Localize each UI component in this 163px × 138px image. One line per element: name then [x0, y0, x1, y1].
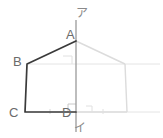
vertex-label-a: A	[66, 28, 75, 41]
right-angle-marker-upper	[63, 56, 72, 64]
mirrored-edge-b-c	[125, 64, 127, 112]
geometry-figure	[0, 0, 163, 138]
axis-label-top: ア	[76, 7, 88, 19]
diagram-canvas: A B C D ア イ	[0, 0, 163, 138]
vertex-label-c: C	[9, 106, 18, 119]
axis-label-bottom: イ	[74, 122, 86, 134]
vertex-label-b: B	[13, 55, 22, 68]
right-angle-marker-mirrored-lower	[86, 106, 92, 112]
quadrilateral-outline	[25, 41, 76, 112]
vertex-label-d: D	[62, 106, 71, 119]
mirrored-edge-a-b	[76, 41, 125, 64]
